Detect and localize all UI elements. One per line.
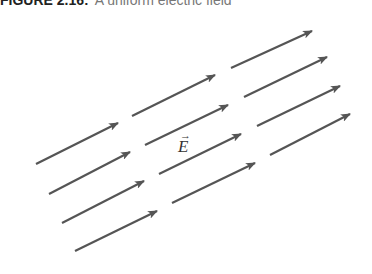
field-arrow-icon — [36, 123, 118, 164]
field-arrow-icon — [49, 152, 130, 194]
field-arrow-icon — [172, 163, 255, 203]
vector-arrow-mark: → — [180, 129, 191, 141]
field-arrow-icon — [257, 86, 340, 126]
field-arrow-icon — [132, 75, 215, 116]
electric-field-label: → E — [178, 137, 188, 157]
field-arrow-icon — [231, 31, 312, 68]
field-arrow-icon — [62, 181, 144, 223]
field-arrow-icon — [270, 114, 350, 155]
field-arrow-icon — [244, 57, 327, 97]
field-arrow-icon — [75, 211, 157, 251]
field-lines — [36, 31, 350, 251]
field-arrow-icon — [159, 134, 241, 174]
